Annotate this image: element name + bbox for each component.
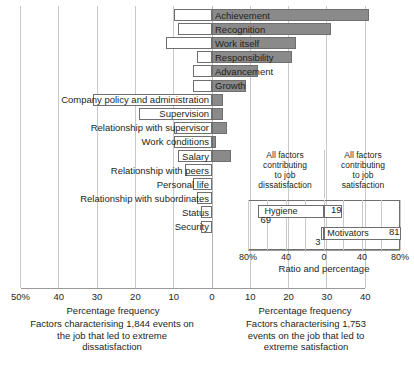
bar-satisfaction <box>212 108 223 120</box>
axis-tick: 40 <box>345 291 385 302</box>
axis-tick: 10 <box>154 291 194 302</box>
row-label: Personal life <box>157 179 209 191</box>
row-label: Growth <box>215 80 246 92</box>
inset-x-axis-line <box>248 250 400 251</box>
right-caption: Factors characterising 1,753 events on t… <box>214 318 398 353</box>
gridline-40 <box>58 6 59 288</box>
row-label: Advancement <box>215 66 273 78</box>
inset-heading-satisfaction: All factors contributing to job satisfac… <box>326 150 400 190</box>
left-caption: Factors characterising 1,844 events on t… <box>12 318 212 353</box>
gridline-30 <box>97 6 98 288</box>
row-label: Company policy and administration <box>61 94 209 106</box>
bar-satisfaction <box>212 136 216 148</box>
bar-dissatisfaction <box>193 80 212 92</box>
inset-value-motivators-satisfaction: 81 <box>389 226 400 237</box>
inset-axis-title: Ratio and percentage <box>248 263 400 274</box>
row-label: Relationship with peers <box>111 165 209 177</box>
axis-tick: 10 <box>230 291 270 302</box>
inset-value-hygiene-dissatisfaction: 69 <box>260 214 271 225</box>
row-label: Status <box>182 207 209 219</box>
bar-dissatisfaction <box>197 51 212 63</box>
inset-heading-dissatisfaction: All factors contributing to job dissatis… <box>248 150 322 190</box>
row-label: Responsibility <box>215 52 274 64</box>
gridline-50 <box>20 6 21 288</box>
row-label: Achievement <box>215 10 270 22</box>
inset-gridline-80 <box>248 200 249 250</box>
bar-dissatisfaction <box>174 9 212 21</box>
axis-tick: 30 <box>307 291 347 302</box>
x-axis-line <box>21 288 366 289</box>
bar-satisfaction <box>212 150 231 162</box>
bar-dissatisfaction <box>166 37 212 49</box>
row-label: Relationship with supervisor <box>91 122 209 134</box>
axis-tick: 20 <box>269 291 309 302</box>
axis-tick: 20 <box>115 291 155 302</box>
inset-axis-tick: 80% <box>232 252 264 262</box>
inset-value-hygiene-satisfaction: 19 <box>331 204 342 215</box>
bar-satisfaction <box>212 94 223 106</box>
bar-dissatisfaction <box>193 65 212 77</box>
row-label: Security <box>175 221 209 233</box>
inset-axis-tick: 0 <box>308 252 340 262</box>
row-label: Salary <box>182 151 209 163</box>
row-label: Work itself <box>215 38 259 50</box>
inset-gridline-80 <box>400 200 401 250</box>
inset-axis-tick: 40 <box>270 252 302 262</box>
axis-tick: 40 <box>39 291 79 302</box>
row-label: Recognition <box>215 24 265 36</box>
row-label: Supervision <box>159 108 209 120</box>
left-axis-title: Percentage frequency <box>20 305 206 317</box>
row-label: Relationship with subordinates <box>80 193 209 205</box>
inset-gridline-40 <box>362 200 363 250</box>
axis-tick: 30 <box>77 291 117 302</box>
inset-gridline-minor <box>381 200 382 250</box>
inset-axis-tick: 80% <box>384 252 414 262</box>
inset-row-label: Motivators <box>327 227 369 240</box>
axis-tick: 0 <box>192 291 232 302</box>
right-axis-title: Percentage frequency <box>212 305 398 317</box>
bar-satisfaction <box>212 122 227 134</box>
bar-dissatisfaction <box>178 23 212 35</box>
gridline-20 <box>135 6 136 288</box>
inset-value-motivators-dissatisfaction: 3 <box>315 236 320 247</box>
inset-gridline-minor <box>343 200 344 250</box>
inset-axis-tick: 40 <box>346 252 378 262</box>
axis-tick: 50% <box>1 291 41 302</box>
row-label: Work conditions <box>142 136 209 148</box>
inset-heading-divider <box>324 150 325 198</box>
